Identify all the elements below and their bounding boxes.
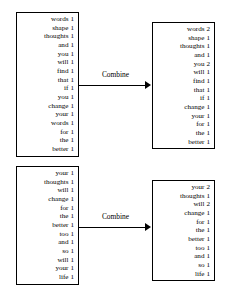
word-count-row: if1 xyxy=(156,94,210,103)
word-count-row: words1 xyxy=(20,119,74,128)
word-text: you xyxy=(194,60,205,68)
word-text: for xyxy=(60,204,68,212)
combine-arrow-bottom xyxy=(79,222,152,234)
word-count-row: and1 xyxy=(156,51,210,60)
word-count-row: thoughts1 xyxy=(156,192,210,201)
word-count-value: 1 xyxy=(70,178,74,186)
word-count-value: 2 xyxy=(206,200,210,208)
word-count-row: better1 xyxy=(20,221,74,230)
word-text: thoughts xyxy=(180,192,204,200)
word-text: will xyxy=(193,68,204,76)
word-count-row: find1 xyxy=(20,67,74,76)
word-count-value: 1 xyxy=(206,270,210,278)
word-text: so xyxy=(62,247,68,255)
word-count-value: 1 xyxy=(70,169,74,177)
word-count-value: 1 xyxy=(70,32,74,40)
word-text: your xyxy=(55,264,68,272)
word-count-value: 1 xyxy=(206,34,210,42)
word-count-value: 1 xyxy=(206,112,210,120)
word-text: will xyxy=(57,256,68,264)
word-text: words xyxy=(51,119,68,127)
word-count-value: 2 xyxy=(206,25,210,33)
word-text: if xyxy=(200,94,204,102)
word-count-row: thoughts1 xyxy=(20,32,74,41)
word-text: you xyxy=(58,93,69,101)
word-count-value: 1 xyxy=(206,218,210,226)
word-count-row: better1 xyxy=(156,138,210,147)
word-text: and xyxy=(58,238,68,246)
word-text: better xyxy=(52,221,68,229)
word-count-row: will2 xyxy=(156,200,210,209)
word-text: will xyxy=(57,186,68,194)
word-count-value: 2 xyxy=(206,60,210,68)
word-count-row: shape1 xyxy=(156,34,210,43)
word-count-row: you2 xyxy=(156,60,210,69)
word-count-value: 1 xyxy=(70,221,74,229)
word-text: your xyxy=(55,169,68,177)
word-count-row: life1 xyxy=(20,273,74,282)
word-count-value: 1 xyxy=(70,256,74,264)
word-count-value: 1 xyxy=(206,86,210,94)
word-count-value: 1 xyxy=(70,50,74,58)
word-count-row: and1 xyxy=(20,41,74,50)
word-count-value: 2 xyxy=(206,183,210,191)
word-count-value: 1 xyxy=(206,103,210,111)
word-text: and xyxy=(194,252,204,260)
word-text: better xyxy=(188,138,204,146)
word-text: life xyxy=(59,273,68,281)
arrow-head-icon xyxy=(145,223,151,231)
word-count-row: for1 xyxy=(20,204,74,213)
word-count-row: shape1 xyxy=(20,24,74,33)
word-text: will xyxy=(57,58,68,66)
word-count-value: 1 xyxy=(206,68,210,76)
word-count-row: for1 xyxy=(20,128,74,137)
word-count-value: 1 xyxy=(70,67,74,75)
word-text: that xyxy=(58,76,69,84)
word-count-row: change1 xyxy=(20,195,74,204)
word-count-value: 1 xyxy=(206,42,210,50)
combine-arrow-top xyxy=(79,80,152,92)
word-text: thoughts xyxy=(44,32,68,40)
word-count-row: words1 xyxy=(20,15,74,24)
word-count-value: 1 xyxy=(206,235,210,243)
word-text: better xyxy=(52,145,68,153)
word-count-value: 1 xyxy=(70,230,74,238)
word-text: so xyxy=(198,261,204,269)
word-text: change xyxy=(184,103,204,111)
word-count-row: so1 xyxy=(20,247,74,256)
word-count-value: 1 xyxy=(70,84,74,92)
word-count-value: 1 xyxy=(70,119,74,127)
word-count-row: life1 xyxy=(156,270,210,279)
word-count-row: will1 xyxy=(20,58,74,67)
combined-word-counts-top-box: words2shape1thoughts1and1you2will1find1t… xyxy=(152,22,215,149)
word-text: if xyxy=(64,84,68,92)
combine-label-bottom: Combine xyxy=(79,212,152,221)
word-count-row: you1 xyxy=(20,93,74,102)
word-count-row: for1 xyxy=(156,218,210,227)
word-text: for xyxy=(196,218,204,226)
word-text: the xyxy=(196,226,205,234)
word-count-value: 1 xyxy=(206,244,210,252)
word-count-row: so1 xyxy=(156,261,210,270)
word-count-row: thoughts1 xyxy=(156,42,210,51)
arrow-shaft xyxy=(79,85,146,86)
word-count-row: change1 xyxy=(156,103,210,112)
word-count-value: 1 xyxy=(206,129,210,137)
word-count-value: 1 xyxy=(206,209,210,217)
word-text: change xyxy=(184,209,204,217)
arrow-shaft xyxy=(79,227,146,228)
word-count-row: the1 xyxy=(156,129,210,138)
word-count-row: and1 xyxy=(156,252,210,261)
word-text: shape xyxy=(52,24,68,32)
word-count-value: 1 xyxy=(70,93,74,101)
word-count-value: 1 xyxy=(70,102,74,110)
input-word-counts-bottom-box: your1thoughts1will1change1for1the1better… xyxy=(16,166,79,285)
combined-word-counts-bottom-box: your2thoughts1will2change1for1the1better… xyxy=(152,180,215,281)
word-count-row: better1 xyxy=(156,235,210,244)
word-text: your xyxy=(191,183,204,191)
word-count-row: will1 xyxy=(20,186,74,195)
word-count-value: 1 xyxy=(70,128,74,136)
word-text: will xyxy=(193,200,204,208)
word-text: change xyxy=(48,195,68,203)
word-count-value: 1 xyxy=(206,94,210,102)
